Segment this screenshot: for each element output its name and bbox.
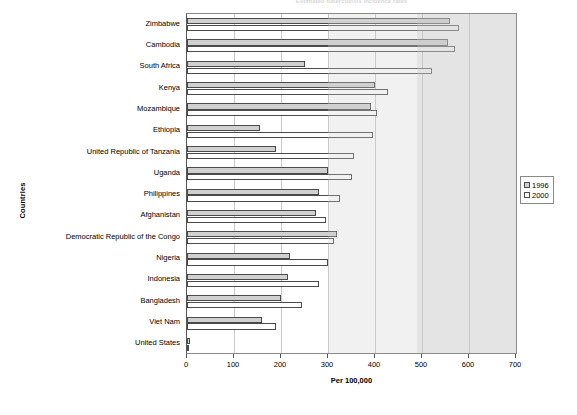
bar-1996-ethiopia xyxy=(187,125,260,131)
bar-2000-cambodia xyxy=(187,46,455,52)
bar-1996-south-africa xyxy=(187,61,305,67)
y-axis-label-bangladesh: Bangladesh xyxy=(140,297,180,305)
x-tick xyxy=(186,354,187,358)
bar-2000-mozambique xyxy=(187,110,377,116)
bar-2000-viet-nam xyxy=(187,323,276,329)
y-axis-label-kenya: Kenya xyxy=(159,84,180,92)
x-axis-title: Per 100,000 xyxy=(186,376,517,385)
y-axis-label-democratic-republic-of-the-congo: Democratic Republic of the Congo xyxy=(66,233,180,241)
legend-label-1996: 1996 xyxy=(532,181,549,190)
bar-1996-nigeria xyxy=(187,253,290,259)
bar-1996-afghanistan xyxy=(187,210,316,216)
x-axis-tick-labels: 0100200300400500600700 xyxy=(186,360,517,372)
x-tick xyxy=(421,354,422,358)
y-axis-label-mozambique: Mozambique xyxy=(137,105,180,113)
gridline xyxy=(375,14,376,353)
bar-2000-ethiopia xyxy=(187,132,373,138)
bar-2000-zimbabwe xyxy=(187,25,459,31)
x-tick xyxy=(374,354,375,358)
legend-swatch-1996 xyxy=(524,182,530,188)
bar-1996-democratic-republic-of-the-congo xyxy=(187,231,337,237)
gridline xyxy=(422,14,423,353)
bar-1996-united-republic-of-tanzania xyxy=(187,146,276,152)
gridline xyxy=(516,14,517,353)
y-axis-label-afghanistan: Afghanistan xyxy=(140,211,180,219)
x-tick-label: 200 xyxy=(274,360,287,369)
x-tick-label: 600 xyxy=(462,360,475,369)
y-axis-label-indonesia: Indonesia xyxy=(147,275,180,283)
bar-2000-uganda xyxy=(187,174,352,180)
bar-1996-philippines xyxy=(187,189,319,195)
y-axis-category-labels: ZimbabweCambodiaSouth AfricaKenyaMozambi… xyxy=(18,13,183,354)
legend-item-1996[interactable]: 1996 xyxy=(524,180,549,190)
bar-2000-philippines xyxy=(187,195,340,201)
bar-1996-cambodia xyxy=(187,39,448,45)
bar-2000-united-republic-of-tanzania xyxy=(187,153,354,159)
bar-2000-bangladesh xyxy=(187,302,302,308)
y-axis-label-nigeria: Nigeria xyxy=(156,254,180,262)
y-axis-label-cambodia: Cambodia xyxy=(146,41,180,49)
y-axis-label-south-africa: South Africa xyxy=(140,62,180,70)
gridline xyxy=(469,14,470,353)
bar-2000-united-states xyxy=(187,345,189,351)
bar-1996-zimbabwe xyxy=(187,18,450,24)
category-band xyxy=(187,334,516,354)
x-tick xyxy=(280,354,281,358)
x-tick-label: 100 xyxy=(227,360,240,369)
bar-1996-united-states xyxy=(187,338,190,344)
x-tick-label: 700 xyxy=(509,360,522,369)
bar-2000-afghanistan xyxy=(187,217,326,223)
plot-area xyxy=(186,13,517,354)
x-tick-label: 400 xyxy=(368,360,381,369)
legend-swatch-2000 xyxy=(524,192,530,198)
y-axis-label-zimbabwe: Zimbabwe xyxy=(145,20,180,28)
legend-label-2000: 2000 xyxy=(532,191,549,200)
x-tick xyxy=(327,354,328,358)
bar-2000-south-africa xyxy=(187,68,432,74)
y-axis-label-viet-nam: Viet Nam xyxy=(149,318,180,326)
x-tick-label: 500 xyxy=(415,360,428,369)
bar-1996-viet-nam xyxy=(187,317,262,323)
y-axis-label-ethiopia: Ethiopia xyxy=(153,126,180,134)
x-tick-label: 0 xyxy=(184,360,188,369)
legend-item-2000[interactable]: 2000 xyxy=(524,190,549,200)
x-tick xyxy=(468,354,469,358)
bar-2000-indonesia xyxy=(187,281,319,287)
x-tick-label: 300 xyxy=(321,360,334,369)
bar-2000-democratic-republic-of-the-congo xyxy=(187,238,334,244)
y-axis-label-philippines: Philippines xyxy=(144,190,180,198)
x-tick xyxy=(515,354,516,358)
bar-chart: Estimated tuberculosis incidence rates C… xyxy=(0,0,577,415)
y-axis-label-united-states: United States xyxy=(135,339,180,347)
chart-legend: 1996 2000 xyxy=(520,176,554,204)
x-tick xyxy=(233,354,234,358)
bar-1996-kenya xyxy=(187,82,375,88)
bar-1996-mozambique xyxy=(187,103,371,109)
bar-2000-nigeria xyxy=(187,259,328,265)
y-axis-label-united-republic-of-tanzania: United Republic of Tanzania xyxy=(87,148,180,156)
gridline xyxy=(328,14,329,353)
chart-title: Estimated tuberculosis incidence rates xyxy=(186,0,517,4)
bar-2000-kenya xyxy=(187,89,388,95)
bar-1996-uganda xyxy=(187,167,328,173)
bar-1996-bangladesh xyxy=(187,295,281,301)
bar-1996-indonesia xyxy=(187,274,288,280)
y-axis-label-uganda: Uganda xyxy=(154,169,180,177)
